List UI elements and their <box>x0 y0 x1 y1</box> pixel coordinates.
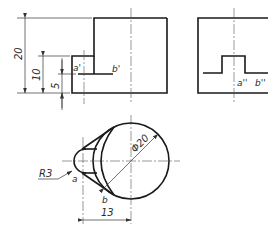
point-a-label: a <box>72 174 78 184</box>
side-view: a'' b'' <box>198 8 268 104</box>
dimension-diameter-label: Φ20 <box>129 132 151 154</box>
front-view-outline <box>72 18 167 93</box>
tangent-lower <box>82 173 114 195</box>
dimension-radius-label: R3 <box>39 168 52 179</box>
point-b-label: b <box>102 195 108 205</box>
dimension-5-label: 5 <box>50 83 61 89</box>
point-b-prime-label: b' <box>112 64 120 74</box>
point-a-prime-label: a' <box>73 63 81 73</box>
dimension-20-label: 20 <box>13 47 24 60</box>
front-view: 20 10 5 a' b' <box>13 8 167 110</box>
top-view: Φ20 R3 13 a b <box>38 115 180 224</box>
side-view-bump <box>203 56 268 73</box>
tangent-upper <box>82 127 114 149</box>
technical-drawing: 20 10 5 a' b' a'' b'' <box>0 0 278 231</box>
point-a-double-prime-label: a'' <box>237 78 247 88</box>
point-b-double-prime-label: b'' <box>255 78 266 88</box>
dimension-10-label: 10 <box>31 68 42 81</box>
dimension-13-label: 13 <box>101 207 114 218</box>
